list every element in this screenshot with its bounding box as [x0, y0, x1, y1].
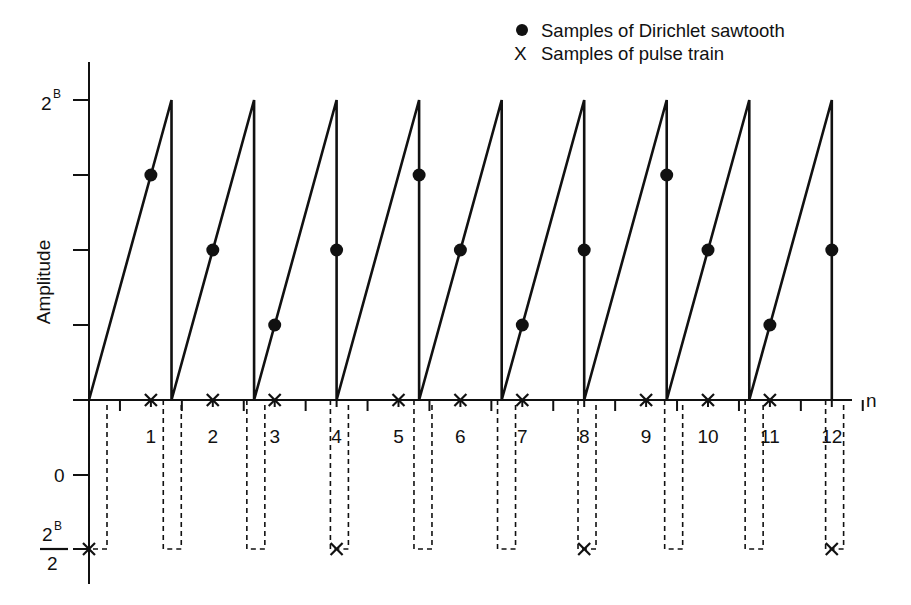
legend: Samples of Dirichlet sawtooth X Samples … [514, 20, 785, 64]
x-tick-label: 1 [146, 426, 157, 447]
svg-text:2: 2 [42, 524, 53, 545]
pulse-rectangle [89, 400, 107, 549]
sawtooth-sample-dot [206, 244, 219, 257]
x-tick-label: 2 [208, 426, 219, 447]
pulse-train-samples [83, 394, 838, 555]
svg-text:2: 2 [41, 93, 52, 114]
y-tick-label-zero: 0 [54, 465, 65, 486]
x-tick-label: 3 [269, 426, 280, 447]
pulse-rectangle [163, 400, 181, 549]
x-axis-label: n [866, 390, 877, 411]
y-tick-label-2B: 2 B [41, 87, 61, 114]
sawtooth-sample-dot [763, 319, 776, 332]
x-tick-label: 6 [455, 426, 466, 447]
sawtooth-samples [144, 169, 838, 332]
sawtooth-sample-dot [144, 169, 157, 182]
sawtooth-sample-dot [702, 244, 715, 257]
pulse-sample-x-icon [331, 543, 343, 555]
pulse-rectangle [745, 400, 763, 549]
legend-label-pulse: Samples of pulse train [541, 43, 724, 64]
svg-text:B: B [53, 87, 61, 101]
y-axis-label: Amplitude [33, 240, 54, 325]
x-tick-label: 9 [641, 426, 652, 447]
y-tick-label-neg-half-2B: 2 B 2 [40, 519, 68, 574]
x-tick-label: 4 [331, 426, 342, 447]
x-tick-label: 10 [697, 426, 718, 447]
sawtooth-sample-dot [660, 169, 673, 182]
pulse-rectangle [247, 400, 265, 549]
pulse-rectangle [578, 400, 596, 549]
x-tick-label: 8 [579, 426, 590, 447]
legend-label-sawtooth: Samples of Dirichlet sawtooth [541, 20, 785, 41]
sawtooth-sample-dot [330, 244, 343, 257]
pulse-rectangle [414, 400, 432, 549]
pulse-rectangle [826, 400, 844, 549]
svg-text:B: B [54, 519, 62, 533]
pulse-rectangle [498, 400, 516, 549]
x-tick-label: 5 [393, 426, 404, 447]
legend-x-icon: X [514, 43, 527, 64]
pulse-sample-x-icon [826, 543, 838, 555]
svg-text:2: 2 [47, 553, 58, 574]
x-tick-label: 7 [517, 426, 528, 447]
pulse-rectangle [665, 400, 683, 549]
x-tick-label: 12 [821, 426, 842, 447]
sawtooth-sample-dot [825, 244, 838, 257]
pulse-train-rectangles [89, 400, 844, 549]
pulse-rectangle [330, 400, 348, 549]
legend-dot-icon [516, 24, 528, 36]
sawtooth-sample-dot [454, 244, 467, 257]
sawtooth-sample-dot [413, 169, 426, 182]
sawtooth-sample-dot [268, 319, 281, 332]
x-ticks: 123456789101112 [120, 400, 863, 447]
sawtooth-sample-dot [578, 244, 591, 257]
sawtooth-sample-dot [516, 319, 529, 332]
figure-canvas: Samples of Dirichlet sawtooth X Samples … [0, 0, 911, 605]
pulse-sample-x-icon [578, 543, 590, 555]
